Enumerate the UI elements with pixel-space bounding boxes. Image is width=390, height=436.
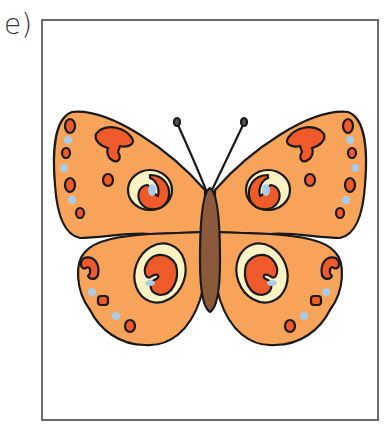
right-blue-dot-2 (351, 164, 359, 172)
left-forewing (54, 112, 205, 238)
left-blue-dot-1 (64, 136, 72, 144)
left-small-spot (103, 174, 113, 186)
left-edge-spot-2 (62, 148, 70, 158)
left-blue-dot-3 (68, 196, 76, 204)
right-antenna-tip (241, 118, 247, 126)
left-hindwing-spot-2 (125, 320, 135, 332)
right-edge-spot-1 (343, 119, 353, 133)
butterfly-body (200, 188, 220, 312)
butterfly-illustration (0, 0, 390, 436)
right-hindwing-eye-pupil (267, 280, 277, 286)
left-blue-dot-2 (60, 164, 68, 172)
right-edge-spot-2 (348, 148, 356, 158)
right-blue-dot-1 (346, 136, 354, 144)
left-edge-spot-3 (65, 178, 75, 192)
right-blue-dot-4 (322, 288, 330, 296)
right-hindwing-spot-2 (285, 320, 295, 332)
left-blue-dot-4 (88, 288, 96, 296)
left-forewing-eye-pupil (148, 184, 156, 196)
right-edge-spot-4 (336, 208, 344, 218)
left-hindwing-eye-pupil (145, 280, 155, 286)
left-hindwing-spot-1 (98, 296, 108, 305)
left-antenna-tip (174, 118, 180, 126)
right-forewing-eye-pupil (262, 184, 270, 196)
right-blue-dot-3 (342, 196, 350, 204)
right-hindwing-spot-1 (311, 296, 321, 305)
right-small-spot (305, 174, 315, 186)
left-edge-spot-4 (76, 208, 84, 218)
right-edge-spot-3 (345, 178, 355, 192)
left-edge-spot-1 (65, 119, 75, 133)
left-blue-dot-5 (112, 312, 120, 320)
right-blue-dot-5 (300, 312, 308, 320)
